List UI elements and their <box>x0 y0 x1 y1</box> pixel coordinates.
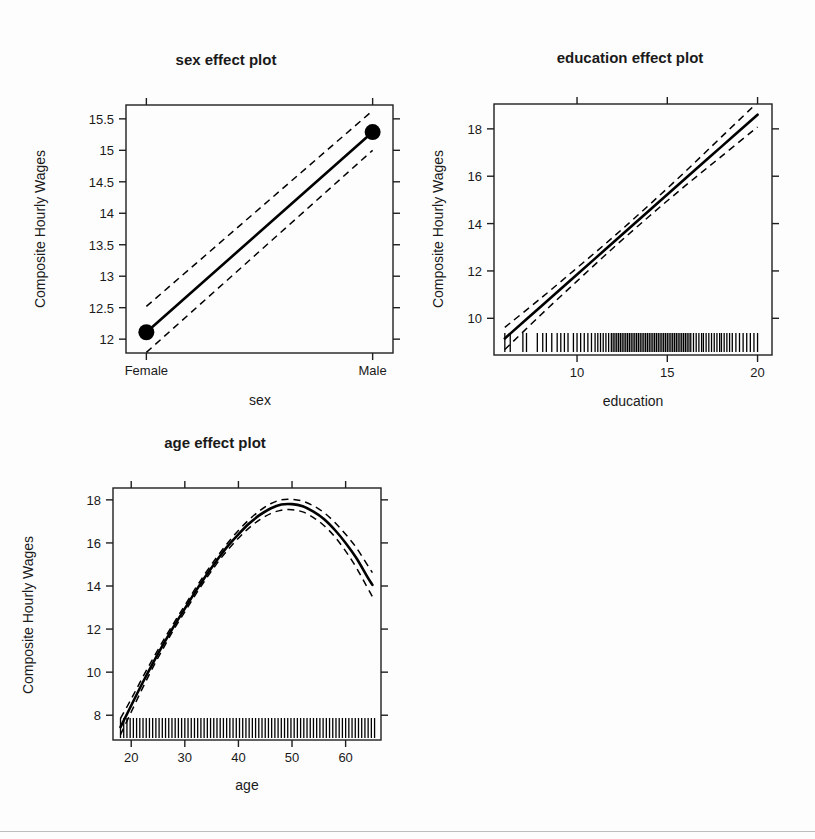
rug-plot-education <box>505 333 758 352</box>
plot-region-sex: FemaleMale1212.51313.51414.51515.5 <box>89 98 400 378</box>
y-axis-title-education: Composite Hourly Wages <box>430 150 446 308</box>
plot-region-education: 1015201012141618 <box>468 97 779 380</box>
y-tick-label-education: 12 <box>468 264 482 279</box>
y-tick-label-sex: 12 <box>100 332 114 347</box>
panel-sex-effect-plot: sex effect plot sex Composite Hourly Wag… <box>0 0 420 420</box>
y-tick-label-sex: 14.5 <box>89 175 114 190</box>
panel-education-effect-plot: education effect plot education Composit… <box>400 0 815 420</box>
confidence-band-education <box>505 127 758 350</box>
y-tick-label-age: 14 <box>87 579 101 594</box>
confidence-band-age <box>121 499 373 718</box>
x-tick-label-age: 20 <box>124 750 138 765</box>
x-tick-label-age: 50 <box>285 750 299 765</box>
y-tick-label-age: 16 <box>87 536 101 551</box>
page-bottom-divider <box>0 831 815 832</box>
y-tick-label-sex: 15.5 <box>89 112 114 127</box>
confidence-band-sex <box>146 111 372 307</box>
x-tick-label-age: 60 <box>338 750 352 765</box>
figure-canvas: sex effect plot sex Composite Hourly Wag… <box>0 0 815 839</box>
fit-line-sex <box>146 132 372 332</box>
fit-line-age <box>121 504 373 727</box>
y-tick-label-age: 8 <box>94 708 101 723</box>
confidence-band-sex <box>146 150 372 352</box>
x-axis-title-education: education <box>603 393 664 409</box>
confidence-band-education <box>505 102 758 327</box>
x-tick-label-education: 20 <box>750 365 764 380</box>
y-tick-label-education: 14 <box>468 217 482 232</box>
y-tick-label-sex: 14 <box>100 206 114 221</box>
y-tick-label-sex: 12.5 <box>89 301 114 316</box>
sex-effect-chart: sex effect plot sex Composite Hourly Wag… <box>0 0 420 420</box>
x-tick-label-sex: Male <box>359 363 387 378</box>
chart-title-sex: sex effect plot <box>176 51 277 68</box>
y-tick-label-sex: 15 <box>100 143 114 158</box>
y-tick-label-sex: 13.5 <box>89 238 114 253</box>
y-axis-title-age: Composite Hourly Wages <box>20 536 36 694</box>
education-effect-chart: education effect plot education Composit… <box>400 0 815 420</box>
x-tick-label-sex: Female <box>125 363 168 378</box>
y-tick-label-education: 18 <box>468 122 482 137</box>
y-tick-label-age: 12 <box>87 622 101 637</box>
y-axis-title-sex: Composite Hourly Wages <box>32 150 48 308</box>
chart-title-education: education effect plot <box>557 49 704 66</box>
fit-line-education <box>505 115 758 339</box>
confidence-band-age <box>121 510 373 735</box>
x-tick-label-age: 30 <box>178 750 192 765</box>
x-axis-title-age: age <box>235 777 259 793</box>
panel-age-effect-plot: age effect plot age Composite Hourly Wag… <box>0 400 420 820</box>
effect-point-marker <box>138 324 154 340</box>
plot-frame-education <box>494 104 772 355</box>
chart-title-age: age effect plot <box>164 434 266 451</box>
y-tick-label-education: 16 <box>468 169 482 184</box>
y-tick-label-age: 10 <box>87 665 101 680</box>
age-effect-chart: age effect plot age Composite Hourly Wag… <box>0 400 420 820</box>
y-tick-label-sex: 13 <box>100 269 114 284</box>
y-tick-label-education: 10 <box>468 311 482 326</box>
effect-point-marker <box>365 124 381 140</box>
x-tick-label-education: 10 <box>570 365 584 380</box>
plot-region-age: 203040506081012141618 <box>87 481 388 765</box>
x-tick-label-age: 40 <box>231 750 245 765</box>
x-tick-label-education: 15 <box>660 365 674 380</box>
rug-plot-age <box>121 718 375 738</box>
y-tick-label-age: 18 <box>87 493 101 508</box>
